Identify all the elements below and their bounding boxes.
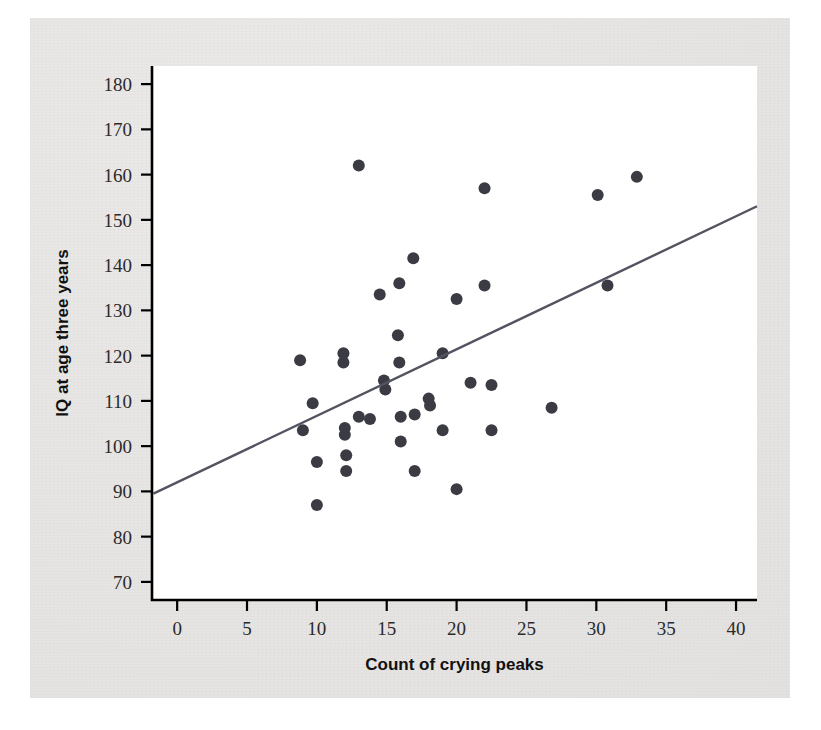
data-point [307,397,319,409]
data-point [409,408,421,420]
data-point [297,424,309,436]
data-point [340,449,352,461]
y-axis-ticks: 708090100110120130140150160170180 [104,74,153,593]
y-tick-label: 120 [104,346,133,367]
data-point [546,402,558,414]
data-point [395,436,407,448]
y-tick-label: 130 [104,300,133,321]
data-point [353,160,365,172]
x-tick-label: 0 [172,618,182,639]
data-point [353,411,365,423]
y-tick-label: 90 [113,481,132,502]
data-point [486,379,498,391]
data-point [311,499,323,511]
data-point [479,182,491,194]
x-tick-label: 40 [727,618,746,639]
data-point [631,171,643,183]
y-tick-label: 110 [104,391,132,412]
data-point [409,465,421,477]
x-tick-label: 20 [447,618,466,639]
x-tick-label: 10 [307,618,326,639]
y-tick-label: 140 [104,255,133,276]
y-tick-label: 100 [104,436,133,457]
data-point [374,289,386,301]
y-tick-label: 70 [113,572,132,593]
data-point [601,279,613,291]
data-point [451,293,463,305]
data-point [592,189,604,201]
x-axis-title: Count of crying peaks [365,655,544,674]
data-point [393,277,405,289]
y-axis-title: IQ at age three years [53,249,72,416]
plot-area-background [152,66,757,600]
x-tick-label: 5 [242,618,252,639]
x-tick-label: 15 [377,618,396,639]
data-point [311,456,323,468]
data-point [294,354,306,366]
x-axis-ticks: 0510152025303540 [172,600,745,639]
data-point [392,329,404,341]
data-point [339,429,351,441]
data-point [479,279,491,291]
x-tick-label: 35 [657,618,676,639]
data-point [486,424,498,436]
y-tick-label: 170 [104,119,133,140]
figure-page: 0510152025303540 70809010011012013014015… [0,0,821,730]
y-tick-label: 160 [104,165,133,186]
scatter-chart: 0510152025303540 70809010011012013014015… [0,0,821,730]
y-tick-label: 80 [113,527,132,548]
data-point [424,399,436,411]
data-point [364,413,376,425]
data-point [340,465,352,477]
data-point [451,483,463,495]
y-tick-label: 150 [104,210,133,231]
data-point [337,356,349,368]
data-point [395,411,407,423]
data-point [407,252,419,264]
data-point [393,356,405,368]
y-tick-label: 180 [104,74,133,95]
data-point [437,424,449,436]
x-tick-label: 30 [587,618,606,639]
data-point [465,377,477,389]
x-tick-label: 25 [517,618,536,639]
